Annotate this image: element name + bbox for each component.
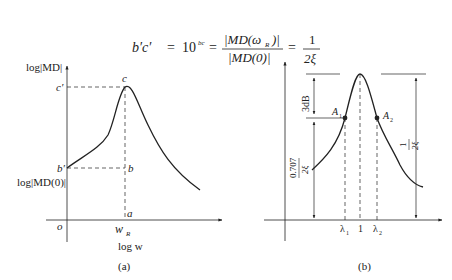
eq-equals-3: = — [288, 40, 296, 55]
right-frac-den: 2ξ — [410, 142, 420, 151]
label-origin: o — [57, 220, 63, 232]
eq-frac-num: 1 — [309, 32, 316, 47]
eq-frac-den: 2ξ — [304, 51, 317, 66]
eq-power-exp: bc — [198, 39, 206, 47]
label-left-fraction: 0.707 2ξ — [288, 157, 310, 178]
eq-equals-2: = — [209, 40, 217, 55]
left-frac-num: 0.707 — [288, 157, 298, 178]
eq-equals-1: = — [167, 40, 175, 55]
response-curve-a — [67, 86, 200, 190]
label-A1: A — [331, 106, 339, 117]
left-frac-den: 2ξ — [300, 166, 310, 175]
eq-numerator-end: )| — [271, 32, 280, 47]
eq-numerator-sub: R — [264, 41, 270, 49]
label-c-prime: c′ — [56, 81, 64, 93]
eq-numerator: |MD(ω — [224, 32, 261, 47]
label-lambda1: λ — [340, 223, 345, 234]
label-lambda2-sub: 2 — [379, 230, 382, 236]
label-3db: 3dB — [300, 95, 311, 112]
label-wR: w — [115, 222, 123, 236]
label-lambda1-sub: 1 — [346, 230, 349, 236]
label-lambda2: λ — [373, 223, 378, 234]
label-b: b — [128, 162, 134, 174]
label-right-fraction: 1 2ξ — [398, 139, 420, 150]
label-c: c — [122, 72, 127, 84]
x-axis-label-a: log w — [118, 240, 143, 252]
label-a: a — [127, 207, 133, 219]
right-frac-num: 1 — [398, 143, 408, 148]
eq-denominator: |MD(0)| — [228, 50, 271, 65]
eq-lhs: b′c′ — [132, 40, 152, 55]
equation: b′c′ = 10 bc = |MD(ω R )| |MD(0)| = 1 2ξ — [132, 32, 320, 66]
label-A1-sub: 1 — [339, 113, 342, 119]
figure-canvas: b′c′ = 10 bc = |MD(ω R )| |MD(0)| = 1 2ξ… — [0, 0, 452, 280]
panel-b: 3dB A 1 A 2 0.707 2ξ 1 2ξ λ 1 1 λ 2 (b) — [264, 62, 442, 273]
caption-b: (b) — [358, 260, 371, 273]
label-A2-sub: 2 — [390, 117, 393, 123]
point-A2 — [375, 116, 380, 121]
label-log-md0: log|MD(0)| — [17, 176, 66, 189]
label-A2: A — [382, 110, 390, 121]
label-one: 1 — [358, 223, 363, 234]
caption-a: (a) — [118, 260, 131, 273]
label-b-prime: b′ — [57, 162, 66, 174]
y-axis-label-a: log|MD| — [26, 61, 62, 73]
label-wR-sub: R — [125, 230, 131, 238]
eq-power-base: 10 — [182, 40, 196, 55]
panel-a: log|MD| c c′ b b′ log|MD(0)| a o w R log… — [17, 61, 222, 273]
point-A1 — [343, 116, 348, 121]
response-curve-b — [312, 74, 423, 187]
